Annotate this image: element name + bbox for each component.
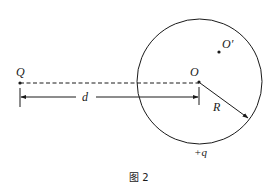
label-q: Q	[16, 65, 25, 79]
label-charge-q: +q	[194, 146, 207, 158]
physics-diagram: Q O O′ d R +q 图 2	[0, 0, 270, 190]
label-r: R	[212, 100, 221, 114]
label-d: d	[82, 90, 89, 104]
figure-caption: 图 2	[129, 172, 149, 183]
label-o: O	[190, 65, 199, 79]
point-o-prime-dot	[217, 50, 220, 53]
label-o-prime: O′	[222, 37, 234, 51]
radius-arrow	[200, 83, 248, 118]
point-q-dot	[18, 81, 21, 84]
